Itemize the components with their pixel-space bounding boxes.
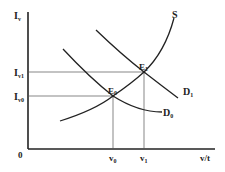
origin-label: 0 — [18, 150, 23, 160]
demand-curve-d0 — [63, 49, 162, 112]
e0-label: E0 — [108, 86, 117, 96]
e1-label: E1 — [139, 62, 148, 72]
y-tick-iv1: Iv1 — [14, 67, 24, 79]
x-tick-v0: v0 — [109, 153, 117, 164]
d1-label: D1 — [183, 86, 193, 98]
y-axis-label: Iv — [14, 10, 21, 22]
x-tick-v1: v1 — [140, 153, 148, 164]
supply-demand-diagram: Iv Iv1 Iv0 0 v0 v1 v/t S D1 D0 E0 E1 — [0, 0, 225, 172]
y-tick-iv0: Iv0 — [14, 91, 24, 103]
supply-curve — [60, 18, 174, 121]
supply-label: S — [172, 9, 178, 20]
d0-label: D0 — [163, 107, 173, 119]
x-axis-label: v/t — [200, 153, 210, 163]
